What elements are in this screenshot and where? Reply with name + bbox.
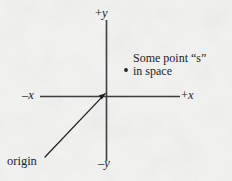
axis-label-negative-y: –y (98, 157, 110, 170)
point-s-marker (124, 68, 128, 72)
coordinate-system-figure: +y –y –x +x Some point “s” in space orig… (0, 0, 232, 181)
axis-label-positive-x: +x (181, 89, 194, 102)
axis-label-negative-x-variable: x (28, 88, 34, 102)
axis-label-positive-x-variable: x (188, 88, 194, 102)
axis-label-positive-x-text: + (181, 88, 188, 102)
axis-label-positive-y-text: + (95, 6, 102, 20)
point-annotation-line-1: Some point “s” (133, 51, 206, 65)
axis-label-positive-y-variable: y (102, 6, 108, 20)
origin-label: origin (7, 155, 37, 168)
axis-label-negative-y-variable: y (104, 156, 110, 170)
point-annotation-line-2: in space (133, 65, 229, 78)
axis-label-positive-y: +y (95, 7, 108, 20)
axis-label-negative-x: –x (22, 89, 34, 102)
point-annotation: Some point “s” in space (133, 52, 229, 77)
